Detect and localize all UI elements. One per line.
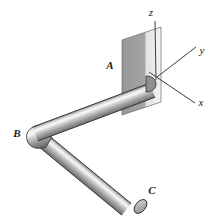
pipe-body-BC [37, 134, 131, 216]
pipe-segment-AB [33, 83, 155, 141]
label-B: B [12, 127, 20, 139]
pipe-segment-BC [37, 134, 131, 216]
bent-pipe-group [27, 76, 156, 216]
figure-container: z y x [0, 0, 212, 224]
z-axis-label: z [148, 6, 154, 18]
label-C: C [148, 184, 156, 196]
label-A: A [105, 59, 113, 71]
pipe-edge-BC-bottom [37, 145, 122, 215]
pipe-body-AB [33, 83, 155, 141]
y-axis-label: y [199, 44, 205, 56]
pipe-edge-BC-top [46, 134, 131, 204]
y-axis-line [157, 47, 196, 77]
x-axis-label: x [198, 96, 204, 108]
pipe-end-cap-C [132, 197, 150, 216]
pipe-diagram: z y x [0, 0, 212, 224]
